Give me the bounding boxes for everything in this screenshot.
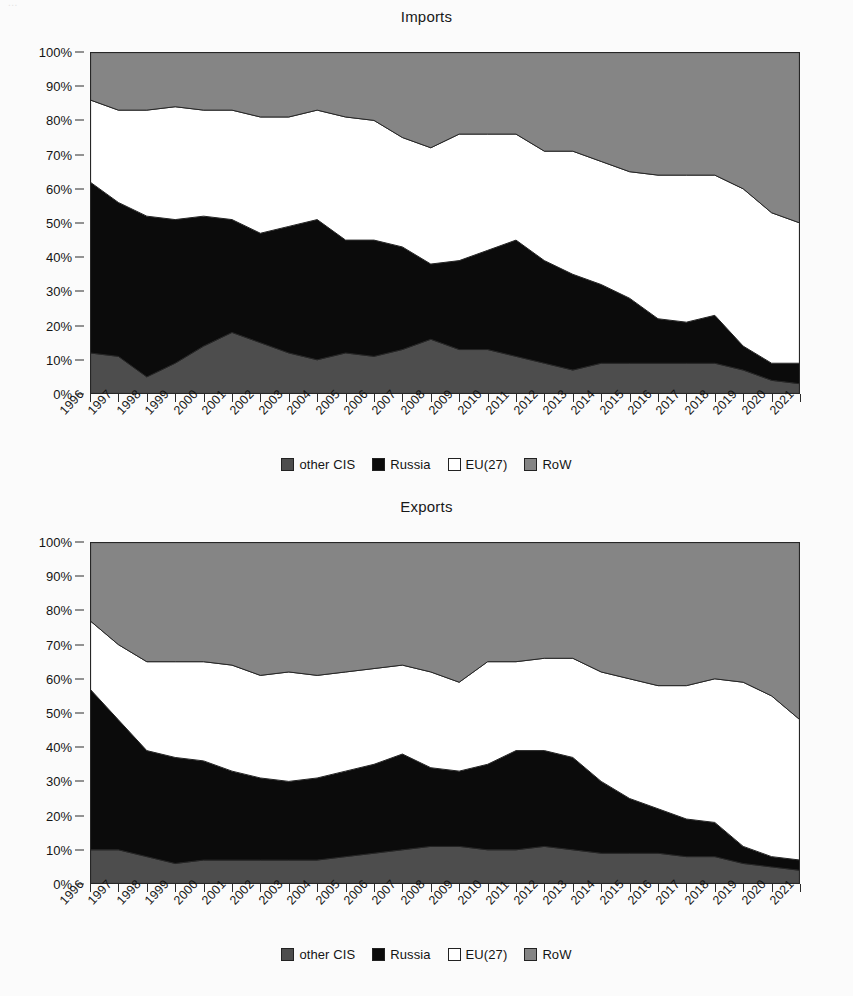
exports-x-axis-labels: 1996199719981999200020012002200320042005… — [0, 892, 853, 946]
y-axis-tick — [75, 713, 84, 714]
imports-chart-title: Imports — [0, 8, 853, 25]
imports-x-axis-labels: 1996199719981999200020012002200320042005… — [0, 402, 853, 456]
legend-item-row[interactable]: RoW — [524, 458, 571, 471]
y-axis-label: 20% — [46, 808, 72, 823]
legend-swatch-russia-icon — [372, 948, 385, 961]
legend-swatch-russia-icon — [372, 458, 385, 471]
y-axis-tick — [75, 223, 84, 224]
exports-stacked-area-svg — [90, 542, 800, 884]
legend-item-other-cis[interactable]: other CIS — [281, 948, 355, 961]
exports-y-axis: 0%10%20%30%40%50%60%70%80%90%100% — [0, 542, 84, 884]
y-axis-tick — [75, 359, 84, 360]
chart-page: ... Imports 0%10%20%30%40%50%60%70%80%90… — [0, 0, 853, 996]
exports-chart-title: Exports — [0, 498, 853, 515]
y-axis-label: 10% — [46, 352, 72, 367]
imports-plot-area — [90, 52, 800, 394]
exports-plot-area — [90, 542, 800, 884]
legend-item-eu27[interactable]: EU(27) — [448, 458, 508, 471]
y-axis-tick — [75, 120, 84, 121]
y-axis-label: 40% — [46, 740, 72, 755]
y-axis-label: 90% — [46, 569, 72, 584]
legend-swatch-other-cis-icon — [281, 948, 294, 961]
y-axis-tick — [75, 610, 84, 611]
imports-legend: other CISRussiaEU(27)RoW — [0, 458, 853, 471]
y-axis-tick — [75, 257, 84, 258]
legend-swatch-other-cis-icon — [281, 458, 294, 471]
y-axis-tick — [75, 576, 84, 577]
y-axis-label: 50% — [46, 706, 72, 721]
legend-label: EU(27) — [466, 948, 508, 961]
y-axis-tick — [75, 849, 84, 850]
imports-chart: Imports 0%10%20%30%40%50%60%70%80%90%100… — [0, 6, 853, 496]
legend-item-eu27[interactable]: EU(27) — [448, 948, 508, 961]
y-axis-tick — [75, 747, 84, 748]
y-axis-label: 100% — [39, 45, 72, 60]
x-axis-tick — [800, 884, 801, 892]
exports-chart: Exports 0%10%20%30%40%50%60%70%80%90%100… — [0, 496, 853, 986]
imports-y-axis: 0%10%20%30%40%50%60%70%80%90%100% — [0, 52, 84, 394]
y-axis-label: 40% — [46, 250, 72, 265]
y-axis-tick — [75, 325, 84, 326]
y-axis-label: 90% — [46, 79, 72, 94]
y-axis-tick — [75, 188, 84, 189]
y-axis-label: 30% — [46, 774, 72, 789]
y-axis-tick — [75, 678, 84, 679]
imports-stacked-area-svg — [90, 52, 800, 394]
legend-swatch-eu27-icon — [448, 458, 461, 471]
legend-item-row[interactable]: RoW — [524, 948, 571, 961]
y-axis-tick — [75, 781, 84, 782]
legend-swatch-row-icon — [524, 458, 537, 471]
legend-label: other CIS — [299, 948, 355, 961]
legend-label: RoW — [542, 948, 571, 961]
y-axis-label: 80% — [46, 113, 72, 128]
legend-label: Russia — [390, 948, 430, 961]
legend-swatch-eu27-icon — [448, 948, 461, 961]
y-axis-tick — [75, 52, 84, 53]
legend-swatch-row-icon — [524, 948, 537, 961]
y-axis-label: 20% — [46, 318, 72, 333]
y-axis-label: 80% — [46, 603, 72, 618]
y-axis-label: 30% — [46, 284, 72, 299]
x-axis-tick — [800, 394, 801, 402]
legend-label: RoW — [542, 458, 571, 471]
exports-legend: other CISRussiaEU(27)RoW — [0, 948, 853, 961]
y-axis-label: 60% — [46, 671, 72, 686]
y-axis-label: 70% — [46, 147, 72, 162]
y-axis-tick — [75, 542, 84, 543]
y-axis-label: 50% — [46, 216, 72, 231]
legend-label: Russia — [390, 458, 430, 471]
legend-label: other CIS — [299, 458, 355, 471]
legend-item-other-cis[interactable]: other CIS — [281, 458, 355, 471]
legend-item-russia[interactable]: Russia — [372, 458, 430, 471]
y-axis-tick — [75, 815, 84, 816]
y-axis-label: 60% — [46, 181, 72, 196]
y-axis-label: 100% — [39, 535, 72, 550]
y-axis-label: 10% — [46, 842, 72, 857]
y-axis-tick — [75, 644, 84, 645]
y-axis-tick — [75, 291, 84, 292]
y-axis-tick — [75, 86, 84, 87]
y-axis-tick — [75, 154, 84, 155]
legend-label: EU(27) — [466, 458, 508, 471]
legend-item-russia[interactable]: Russia — [372, 948, 430, 961]
y-axis-label: 70% — [46, 637, 72, 652]
